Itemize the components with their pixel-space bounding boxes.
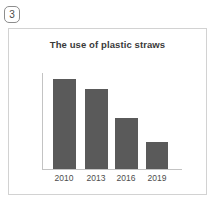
- plot-area: [42, 73, 182, 170]
- x-axis-line: [42, 169, 182, 170]
- bar-2019: [146, 142, 168, 169]
- x-axis-tick-labels: 2010201320162019: [42, 172, 182, 186]
- question-number-label: 3: [9, 10, 15, 20]
- x-tick-label-2016: 2016: [109, 172, 143, 184]
- bars-layer: [42, 73, 182, 169]
- chart-card: The use of plastic straws 20102013201620…: [8, 28, 207, 195]
- x-tick-label-2013: 2013: [79, 172, 113, 184]
- bar-2016: [115, 118, 138, 169]
- chart-title: The use of plastic straws: [9, 39, 206, 50]
- x-tick-label-2010: 2010: [47, 172, 81, 184]
- bar-2010: [53, 79, 76, 169]
- x-tick-label-2019: 2019: [140, 172, 174, 184]
- bar-2013: [85, 89, 108, 169]
- question-number-marker: 3: [4, 6, 20, 23]
